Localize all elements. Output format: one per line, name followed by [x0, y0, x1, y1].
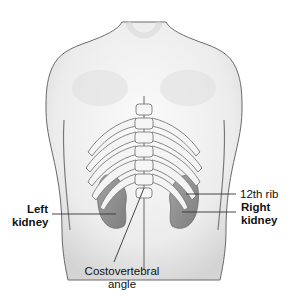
- right-kidney-label: Right kidney: [241, 201, 277, 227]
- left-kidney-label-line1: Left: [24, 203, 48, 216]
- right-kidney-label-line1: Right: [241, 201, 277, 214]
- costovertebral-label-line1: Costovertebral: [74, 265, 170, 278]
- twelfth-rib-label: 12th rib: [240, 188, 278, 201]
- vertebral-column: [135, 104, 153, 198]
- costovertebral-angle-label: Costovertebral angle: [74, 265, 170, 291]
- back-illustration: [0, 0, 288, 297]
- costovertebral-label-line2: angle: [74, 278, 170, 291]
- anatomy-figure: Left kidney 12th rib Right kidney Costov…: [0, 0, 288, 297]
- left-kidney-label: Left kidney: [26, 203, 48, 229]
- left-kidney-label-line2: kidney: [12, 216, 48, 229]
- right-kidney-label-line2: kidney: [241, 214, 277, 227]
